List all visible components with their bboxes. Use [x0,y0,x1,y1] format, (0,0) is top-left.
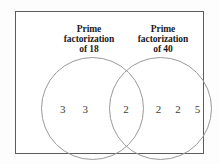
venn-diagram-screenshot: Prime factorization of 18 Prime factoriz… [0,0,219,164]
left-only-region-numbers: 3 3 [42,101,106,117]
right-set-title-line-2: factorization [120,34,206,44]
left-only-number: 3 [83,103,89,115]
right-only-region-numbers: 2 2 5 [145,101,211,117]
right-set-title-line-3: of 40 [120,44,206,54]
right-only-number: 5 [195,103,201,115]
left-only-number: 3 [60,103,66,115]
figure-frame: Prime factorization of 18 Prime factoriz… [15,11,204,154]
right-set-title: Prime factorization of 40 [120,24,206,55]
right-set-title-line-1: Prime [120,24,206,34]
right-only-number: 2 [175,103,181,115]
right-only-number: 2 [156,103,162,115]
intersection-region-numbers: 2 [112,101,140,117]
intersection-number: 2 [123,103,129,115]
